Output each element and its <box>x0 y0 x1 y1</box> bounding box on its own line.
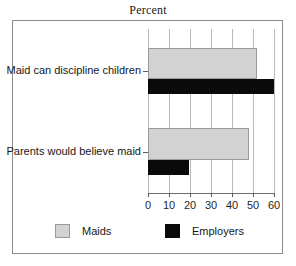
x-tick-40 <box>232 193 233 197</box>
bar-maids-parents-would-believe-maid <box>148 128 249 160</box>
legend-label-employers: Employers <box>192 225 244 237</box>
x-tick-10 <box>169 193 170 197</box>
x-tick-50 <box>253 193 254 197</box>
chart-title: Percent <box>0 3 296 18</box>
chart-figure: Percent 0 10 20 30 40 <box>0 0 296 266</box>
legend-entry-employers: Employers <box>165 221 244 241</box>
legend-label-maids: Maids <box>82 225 111 237</box>
bar-maids-maid-can-discipline-children <box>148 48 257 79</box>
bar-employers-maid-can-discipline-children <box>148 79 274 94</box>
chart-legend: Maids Employers <box>13 221 282 251</box>
plot-area: 0 10 20 30 40 50 60 <box>148 29 274 193</box>
x-tick-60 <box>274 193 275 197</box>
legend-swatch-maids-icon <box>55 224 70 238</box>
y-tick-maid-can-discipline-children <box>143 71 148 72</box>
x-tick-30 <box>211 193 212 197</box>
category-label-maid-can-discipline-children: Maid can discipline children <box>6 64 141 76</box>
bar-employers-parents-would-believe-maid <box>148 160 189 175</box>
x-tick-label-60: 60 <box>259 199 289 211</box>
category-label-parents-would-believe-maid: Parents would believe maid <box>6 145 141 157</box>
legend-swatch-employers-icon <box>165 224 180 238</box>
chart-frame: 0 10 20 30 40 50 60 Maid can discipline … <box>12 20 283 254</box>
y-tick-parents-would-believe-maid <box>143 152 148 153</box>
legend-entry-maids: Maids <box>55 221 111 241</box>
x-tick-0 <box>148 193 149 197</box>
gridline-60 <box>274 29 275 193</box>
x-tick-20 <box>190 193 191 197</box>
